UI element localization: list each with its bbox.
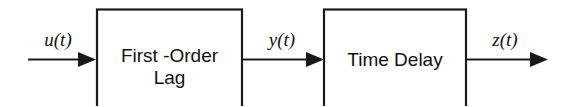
block-first-order-lag: First -Order Lag [97, 10, 242, 107]
signal-arrow-intermediate [242, 52, 324, 67]
output-arrowhead-icon [530, 52, 548, 67]
block-time-delay: Time Delay [324, 10, 466, 107]
signal-label-output: z(t) [491, 29, 517, 51]
block-diagram: u(t) First -Order Lag y(t) Time Delay z(… [0, 0, 582, 106]
block-first-order-lag-label-line1: First -Order [121, 45, 219, 66]
input-arrowhead-icon [78, 52, 96, 67]
block-first-order-lag-label-line2: Lag [154, 67, 186, 88]
block-time-delay-label-line1: Time Delay [347, 49, 443, 70]
signal-arrow-input [28, 52, 96, 67]
signal-label-input: u(t) [44, 29, 71, 51]
signal-label-intermediate: y(t) [267, 29, 295, 51]
intermediate-arrowhead-icon [306, 52, 324, 67]
block-diagram-canvas: u(t) First -Order Lag y(t) Time Delay z(… [0, 0, 582, 106]
signal-arrow-output [466, 52, 548, 67]
